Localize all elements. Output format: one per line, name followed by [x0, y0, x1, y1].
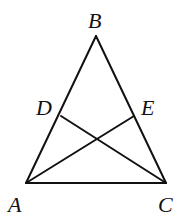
triangle-diagram: B D E A C	[0, 0, 178, 219]
label-c: C	[158, 192, 173, 217]
label-a: A	[6, 192, 22, 217]
label-d: D	[35, 95, 52, 120]
label-e: E	[140, 95, 155, 120]
label-b: B	[88, 8, 101, 33]
